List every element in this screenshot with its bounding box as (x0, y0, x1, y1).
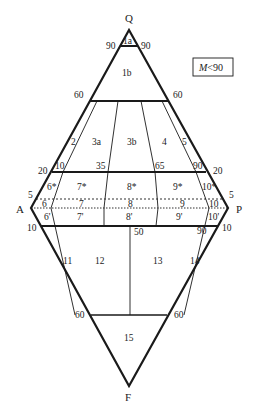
tick-inner-10: 10 (55, 161, 65, 171)
field-7-star: 7* (77, 182, 87, 192)
field-11: 11 (63, 256, 72, 266)
tick-60-bottom-right: 60 (174, 310, 184, 320)
tick-20-right: 20 (213, 166, 223, 176)
vertex-f: F (125, 391, 131, 403)
field-7-prime: 7' (77, 212, 84, 222)
field-6-star: 6* (47, 182, 57, 192)
field-6: 6 (42, 199, 47, 209)
vertex-q: Q (125, 12, 133, 24)
field-8-star: 8* (127, 182, 137, 192)
field-10: 10 (209, 199, 219, 209)
tick-60-left: 60 (74, 90, 84, 100)
tick-5-right: 5 (229, 190, 234, 200)
field-8: 8 (128, 199, 133, 209)
field-10-prime: 10' (208, 212, 220, 222)
field-8-prime: 8' (126, 212, 133, 222)
divider-35 (104, 101, 118, 226)
tick-90-right: 90 (141, 41, 151, 51)
field-3a: 3a (92, 137, 102, 147)
tick-20-left: 20 (38, 166, 48, 176)
tick-60-right: 60 (173, 90, 183, 100)
legend-label: M<90 (198, 62, 223, 73)
tick-inner-65: 65 (155, 161, 165, 171)
tick-inner-35: 35 (96, 161, 106, 171)
field-9-prime: 9' (176, 212, 183, 222)
tick-10-left: 10 (27, 223, 37, 233)
field-1a: 1a (123, 36, 133, 46)
qapf-diagram: Q A P F M<90 90 90 60 60 20 20 5 5 10 10… (0, 0, 258, 407)
field-9: 9 (180, 199, 185, 209)
field-12: 12 (95, 256, 105, 266)
field-13: 13 (153, 256, 163, 266)
field-2: 2 (71, 137, 76, 147)
tick-inner-90-bottom: 90 (197, 226, 207, 236)
field-9-star: 9* (173, 182, 183, 192)
vertex-a: A (16, 203, 24, 215)
tick-5-left: 5 (28, 190, 33, 200)
field-5: 5 (182, 137, 187, 147)
field-3b: 3b (127, 137, 137, 147)
field-4: 4 (162, 137, 167, 147)
tick-inner-90: 90 (193, 161, 203, 171)
field-10-star: 10* (202, 182, 217, 192)
field-15: 15 (124, 333, 134, 343)
field-1b: 1b (122, 68, 132, 78)
tick-inner-50: 50 (134, 227, 144, 237)
field-7: 7 (79, 199, 84, 209)
tick-90-left: 90 (106, 41, 116, 51)
field-14: 14 (190, 256, 200, 266)
tick-60-bottom-left: 60 (75, 310, 85, 320)
tick-10-right: 10 (222, 223, 232, 233)
vertex-p: P (236, 203, 242, 215)
field-6-prime: 6' (44, 212, 51, 222)
